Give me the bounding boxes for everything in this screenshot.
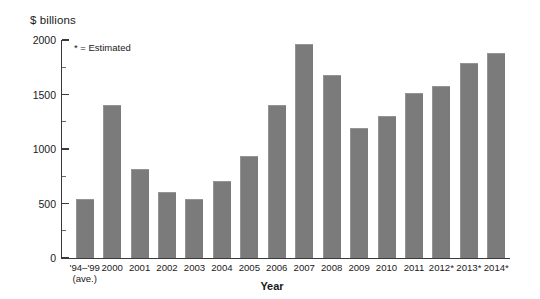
- y-axis-tick-minor: [62, 230, 66, 231]
- x-axis-tick-label-text: 2010: [376, 262, 397, 273]
- x-axis-tick-label: 2009: [348, 262, 369, 273]
- bar: [268, 105, 286, 258]
- x-axis-tick-label: 2010: [376, 262, 397, 273]
- x-axis-tick-label-text: 2013*: [456, 262, 481, 273]
- y-axis-tick-major: [62, 39, 69, 40]
- x-axis-tick-label: 2014*: [484, 262, 509, 273]
- bar: [185, 199, 203, 258]
- x-axis-tick-label: 2006: [266, 262, 287, 273]
- x-axis-tick-label-text: 2011: [404, 262, 425, 273]
- x-axis-tick-label: 2013*: [456, 262, 481, 273]
- y-axis-tick-major: [62, 94, 69, 95]
- x-axis-tick-label-text: 2002: [156, 262, 177, 273]
- bar-chart: $ billions * = Estimated 050010001500200…: [0, 0, 540, 299]
- x-axis-tick-label: 2011: [404, 262, 425, 273]
- bar: [487, 53, 505, 258]
- bar: [350, 128, 368, 258]
- x-axis-tick-label-text: 2014*: [484, 262, 509, 273]
- x-axis-tick-label: 2001: [129, 262, 150, 273]
- x-axis-tick-label-text: 2005: [239, 262, 260, 273]
- y-axis-tick-major: [62, 148, 69, 149]
- x-axis-tick-label-text: 2006: [266, 262, 287, 273]
- x-axis-tick-label-text: 2009: [348, 262, 369, 273]
- y-axis-tick-minor: [62, 121, 66, 122]
- bar: [460, 63, 478, 258]
- x-axis-line: [61, 258, 510, 259]
- y-axis-tick-minor: [62, 176, 66, 177]
- y-axis-tick-major: [62, 257, 69, 258]
- x-axis-tick-label-text: 2001: [129, 262, 150, 273]
- bar: [76, 199, 94, 258]
- x-axis-tick-label-text: 2000: [101, 262, 122, 273]
- x-axis-tick-label: 2002: [156, 262, 177, 273]
- x-axis-tick-label: 2005: [239, 262, 260, 273]
- x-axis-tick-label-text: 2012*: [429, 262, 454, 273]
- x-axis-tick-label: 2003: [184, 262, 205, 273]
- bar: [213, 181, 231, 258]
- y-axis-tick-label: 2000: [33, 35, 56, 46]
- bar: [405, 93, 423, 258]
- x-axis-tick-label: 2004: [211, 262, 232, 273]
- x-axis-tick-label: 2007: [294, 262, 315, 273]
- x-axis-tick-label-text: 2003: [184, 262, 205, 273]
- bar: [323, 75, 341, 258]
- bar: [103, 105, 121, 258]
- x-axis-tick-label-text: 2007: [294, 262, 315, 273]
- bar: [378, 116, 396, 258]
- y-axis-tick-label: 0: [50, 253, 56, 264]
- y-axis-tick-label: 500: [38, 198, 56, 209]
- y-axis-tick-major: [62, 203, 69, 204]
- plot-area: 0500100015002000: [61, 40, 510, 258]
- bar: [158, 192, 176, 258]
- x-axis-tick-label-text: 2008: [321, 262, 342, 273]
- x-axis-title: Year: [0, 280, 540, 292]
- y-axis-tick-label: 1000: [33, 144, 56, 155]
- bar: [432, 86, 450, 258]
- bar: [131, 169, 149, 258]
- bar: [240, 156, 258, 258]
- x-axis-tick-label: 2000: [101, 262, 122, 273]
- y-axis-unit-label: $ billions: [30, 14, 76, 26]
- y-axis-tick-label: 1500: [33, 89, 56, 100]
- x-axis-tick-label: 2008: [321, 262, 342, 273]
- x-axis-title-text: Year: [260, 280, 283, 292]
- x-axis-tick-label-text: '94–'99: [70, 262, 100, 273]
- x-axis-tick-label-text: 2004: [211, 262, 232, 273]
- bar: [295, 44, 313, 258]
- x-axis-tick-label: 2012*: [429, 262, 454, 273]
- y-axis-tick-minor: [62, 67, 66, 68]
